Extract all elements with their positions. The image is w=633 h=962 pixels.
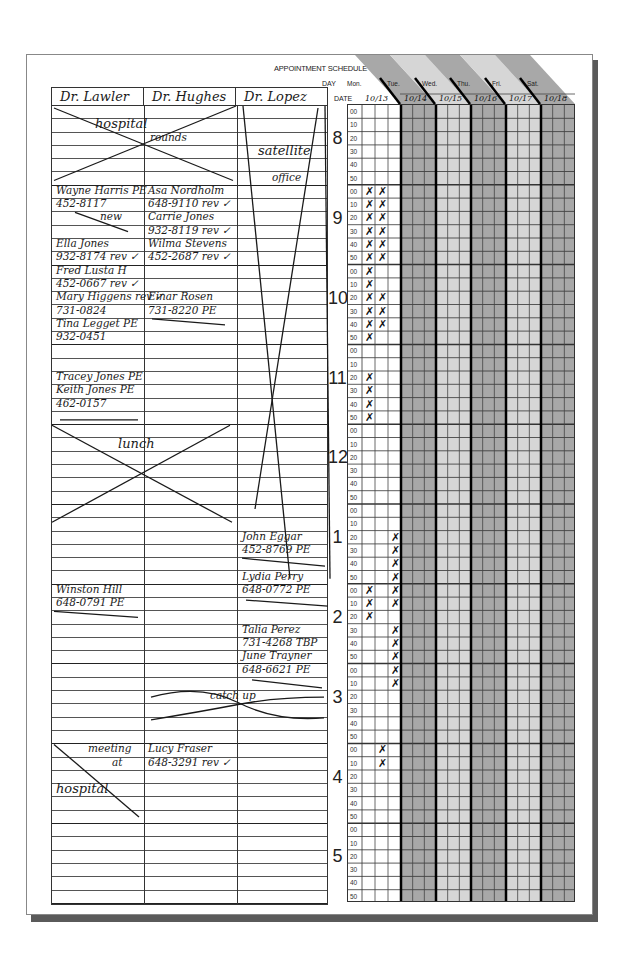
- cross-out-strokes: [0, 0, 633, 962]
